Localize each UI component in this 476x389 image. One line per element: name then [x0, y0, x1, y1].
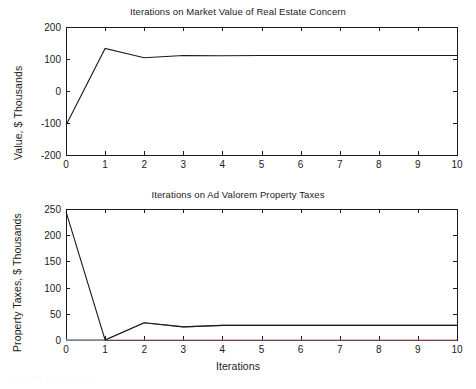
y-tick-label: 100: [44, 282, 61, 293]
x-tick-label: 9: [415, 159, 421, 170]
x-tick-label: 4: [220, 159, 226, 170]
x-tick-label: 3: [181, 344, 187, 355]
x-tick-label: 4: [220, 344, 226, 355]
figure-container: Iterations on Market Value of Real Estat…: [0, 0, 476, 389]
y-tick-label: -100: [41, 118, 61, 129]
y-tick-label: 0: [55, 335, 61, 346]
x-tick-label: 1: [102, 159, 108, 170]
y-tick-label: 150: [44, 256, 61, 267]
x-tick-label: 10: [451, 159, 462, 170]
x-tick-label: 8: [376, 344, 382, 355]
y-tick-label: -200: [41, 150, 61, 161]
x-tick-label: 8: [376, 159, 382, 170]
x-tick-label: 9: [415, 344, 421, 355]
plot-area-market-value: [0, 0, 476, 185]
x-tick-label: 1: [102, 344, 108, 355]
x-tick-label: 5: [259, 344, 265, 355]
x-tick-label: 5: [259, 159, 265, 170]
chart-panel-market-value: Iterations on Market Value of Real Estat…: [0, 0, 476, 185]
y-tick-label: 200: [44, 22, 61, 33]
plot-area-property-taxes: [0, 185, 476, 389]
x-tick-label: 7: [337, 344, 343, 355]
chart-title-property-taxes: Iterations on Ad Valorem Property Taxes: [0, 189, 476, 200]
y-tick-label: 250: [44, 204, 61, 215]
x-tick-label: 0: [63, 159, 69, 170]
x-tick-label: 2: [141, 344, 147, 355]
x-tick-label: 7: [337, 159, 343, 170]
y-tick-label: 200: [44, 230, 61, 241]
chart-panel-property-taxes: Iterations on Ad Valorem Property Taxes …: [0, 185, 476, 389]
y-axis-label-market-value: Value, $ Thousands: [12, 66, 24, 160]
y-tick-label: 0: [55, 86, 61, 97]
x-tick-label: 6: [298, 159, 304, 170]
chart-title-market-value: Iterations on Market Value of Real Estat…: [0, 6, 476, 17]
y-tick-label: 50: [50, 308, 61, 319]
x-tick-label: 6: [298, 344, 304, 355]
x-axis-label-iterations: Iterations: [0, 360, 476, 372]
x-tick-label: 0: [63, 344, 69, 355]
figure-caption: FIGURE 11 Iterations: [10, 374, 92, 383]
x-tick-label: 2: [141, 159, 147, 170]
x-tick-label: 10: [451, 344, 462, 355]
x-tick-label: 3: [181, 159, 187, 170]
y-axis-label-property-taxes: Property Taxes, $ Thousands: [11, 213, 23, 352]
y-tick-label: 100: [44, 54, 61, 65]
